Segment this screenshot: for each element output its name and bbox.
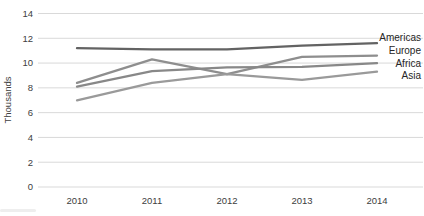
- y-tick-label: 6: [28, 107, 33, 118]
- series-line-americas: [77, 43, 377, 49]
- y-tick-label: 12: [22, 33, 33, 44]
- series-label-africa: Africa: [395, 58, 421, 69]
- y-tick-label: 10: [22, 57, 33, 68]
- x-tick-label: 2012: [216, 195, 237, 206]
- y-axis-title: Thousands: [2, 70, 14, 130]
- series-line-asia: [77, 72, 377, 101]
- x-tick-label: 2011: [142, 195, 162, 206]
- y-tick-label: 14: [22, 8, 33, 19]
- y-tick-label: 0: [28, 181, 33, 192]
- line-chart: Thousands 024681012142010201120122013201…: [0, 0, 424, 216]
- series-label-asia: Asia: [402, 70, 422, 81]
- series-label-europe: Europe: [389, 45, 422, 56]
- x-tick-label: 2014: [366, 195, 387, 206]
- series-label-americas: Americas: [379, 32, 421, 43]
- x-tick-label: 2013: [291, 195, 312, 206]
- plot-area: 0246810121420102011201220132014AmericasE…: [0, 0, 424, 216]
- series-line-europe: [77, 56, 377, 83]
- bottom-left-artifact: [0, 209, 36, 212]
- y-tick-label: 8: [28, 82, 33, 93]
- y-tick-label: 2: [28, 157, 33, 168]
- y-tick-label: 4: [28, 132, 33, 143]
- x-tick-label: 2010: [66, 195, 87, 206]
